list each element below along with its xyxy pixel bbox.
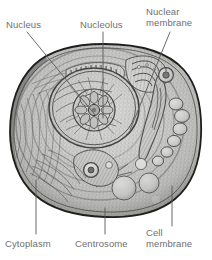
cell-diagram-figure: Nucleus Nucleolus Nuclear membrane Cytop… [0, 0, 212, 260]
label-cell-membrane[interactable]: Cell membrane [146, 227, 192, 249]
label-nuclear-membrane[interactable]: Nuclear membrane [146, 6, 192, 28]
label-nuclear-membrane-line2: membrane [146, 17, 192, 28]
label-cytoplasm[interactable]: Cytoplasm [5, 238, 51, 249]
label-nucleus[interactable]: Nucleus [6, 19, 41, 30]
label-cell-membrane-line1: Cell [146, 227, 192, 238]
cell-illustration [8, 42, 204, 218]
cell-engraving-svg [8, 42, 204, 218]
label-centrosome[interactable]: Centrosome [75, 238, 128, 249]
label-nucleolus[interactable]: Nucleolus [80, 19, 123, 30]
label-nuclear-membrane-line1: Nuclear [146, 6, 192, 17]
label-cell-membrane-line2: membrane [146, 238, 192, 249]
